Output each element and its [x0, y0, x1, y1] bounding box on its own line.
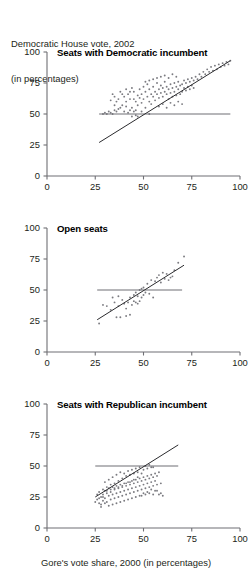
data-point — [102, 496, 104, 498]
x-tick-label: 100 — [232, 357, 248, 368]
data-point — [166, 93, 168, 95]
panel-title: Open seats — [57, 223, 108, 234]
data-point — [112, 494, 114, 496]
data-point — [158, 494, 160, 496]
data-point — [125, 315, 127, 317]
y-tick-label: 25 — [30, 139, 40, 150]
data-point — [189, 88, 191, 90]
data-point — [133, 482, 135, 484]
data-point — [131, 480, 133, 482]
y-tick-label: 100 — [24, 222, 40, 233]
data-point — [110, 484, 112, 486]
x-tick-label: 0 — [44, 181, 49, 192]
data-point — [121, 485, 123, 487]
data-point — [150, 93, 152, 95]
data-point — [200, 76, 202, 78]
data-point — [135, 101, 137, 103]
data-point — [162, 495, 164, 497]
x-tick-label: 100 — [232, 533, 248, 544]
data-point — [146, 482, 148, 484]
data-point — [189, 81, 191, 83]
data-point — [156, 490, 158, 492]
y-tick-label: 50 — [30, 284, 40, 295]
data-point — [177, 88, 179, 90]
data-point — [119, 107, 121, 109]
data-point — [129, 91, 131, 93]
data-point — [156, 277, 158, 279]
x-tick-label: 0 — [44, 533, 49, 544]
data-point — [129, 481, 131, 483]
data-point — [168, 77, 170, 79]
data-point — [168, 88, 170, 90]
data-point — [106, 501, 108, 503]
data-point — [179, 85, 181, 87]
x-tick-label: 0 — [44, 357, 49, 368]
data-point — [141, 93, 143, 95]
data-point — [139, 477, 141, 479]
data-point — [150, 103, 152, 105]
data-point — [102, 500, 104, 502]
data-point — [181, 83, 183, 85]
data-point — [125, 485, 127, 487]
data-point — [175, 86, 177, 88]
data-point — [139, 485, 141, 487]
data-point — [117, 295, 119, 297]
data-point — [170, 277, 172, 279]
data-point — [125, 494, 127, 496]
data-point — [143, 492, 145, 494]
y-tick-label: 75 — [30, 429, 40, 440]
data-point — [112, 503, 114, 505]
data-point — [210, 66, 212, 68]
data-point — [110, 499, 112, 501]
data-point — [117, 496, 119, 498]
data-point — [222, 62, 224, 64]
data-point — [119, 316, 121, 318]
data-point — [112, 476, 114, 478]
data-point — [102, 489, 104, 491]
data-point — [183, 80, 185, 82]
data-point — [144, 479, 146, 481]
data-point — [129, 98, 131, 100]
fit-line — [95, 445, 178, 497]
data-point — [202, 71, 204, 73]
data-point — [133, 111, 135, 113]
data-point — [129, 296, 131, 298]
data-point — [227, 63, 229, 65]
data-point — [143, 287, 145, 289]
data-point — [137, 303, 139, 305]
data-point — [150, 481, 152, 483]
y-tick-label: 75 — [30, 253, 40, 264]
data-point — [127, 93, 129, 95]
data-point — [143, 294, 145, 296]
data-point — [162, 87, 164, 89]
data-point — [158, 97, 160, 99]
data-point — [102, 494, 104, 496]
data-point — [206, 68, 208, 70]
data-point — [193, 80, 195, 82]
data-point — [156, 93, 158, 95]
data-point — [154, 99, 156, 101]
data-point — [173, 82, 175, 84]
data-point — [152, 96, 154, 98]
data-point — [119, 91, 121, 93]
data-point — [116, 492, 118, 494]
data-point — [135, 496, 137, 498]
data-point — [98, 323, 100, 325]
x-tick-label: 75 — [187, 533, 197, 544]
data-point — [98, 502, 100, 504]
data-point — [131, 116, 133, 118]
data-point — [125, 106, 127, 108]
data-point — [114, 497, 116, 499]
data-point — [148, 101, 150, 103]
data-point — [218, 63, 220, 65]
data-point — [117, 486, 119, 488]
data-point — [141, 495, 143, 497]
x-tick-label: 50 — [138, 533, 148, 544]
data-point — [185, 89, 187, 91]
data-point — [108, 479, 110, 481]
data-point — [146, 475, 148, 477]
data-point — [139, 495, 141, 497]
data-point — [183, 256, 185, 258]
data-point — [144, 487, 146, 489]
data-point — [152, 476, 154, 478]
